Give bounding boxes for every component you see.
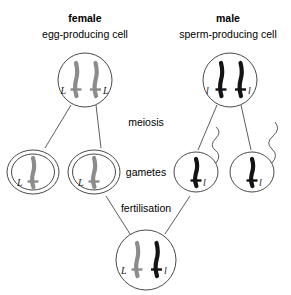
sperm-tail xyxy=(212,127,219,163)
egg-gamete-2: L xyxy=(68,150,120,194)
chromosome-L-2 xyxy=(90,63,101,96)
chromosome-L xyxy=(28,158,39,187)
meiosis-line-male-1 xyxy=(198,105,217,150)
allele-label-L: L xyxy=(120,265,127,276)
egg-producing-cell: L L xyxy=(58,53,112,107)
sperm-gamete-1: l xyxy=(174,127,219,192)
allele-label-L-left: L xyxy=(60,85,67,96)
allele-label-l-left: l xyxy=(206,85,209,96)
meiosis-line-female-2 xyxy=(96,105,101,148)
chromosome-l xyxy=(247,159,258,186)
meiosis-fertilisation-diagram: female egg-producing cell male sperm-pro… xyxy=(0,0,291,295)
female-header-title: female xyxy=(68,12,101,24)
cell-membrane xyxy=(58,53,112,107)
meiosis-connectors-female xyxy=(45,105,101,148)
allele-label-l: l xyxy=(259,177,262,188)
chromosome-l-1 xyxy=(216,63,227,96)
chromosome-l xyxy=(191,159,202,186)
zygote-cell: L l xyxy=(116,230,176,290)
allele-label-l: l xyxy=(164,265,167,276)
sperm-tail xyxy=(269,122,278,163)
cell-membrane xyxy=(116,230,176,290)
sperm-producing-cell: l l xyxy=(203,53,257,107)
meiosis-line-female-1 xyxy=(45,105,71,148)
fertilisation-label: fertilisation xyxy=(121,202,171,214)
meiosis-label: meiosis xyxy=(128,116,164,128)
chromosome-l xyxy=(151,243,162,276)
allele-label-L-right: L xyxy=(102,85,109,96)
female-header-subtitle: egg-producing cell xyxy=(42,28,128,40)
meiosis-connectors-male xyxy=(198,105,251,150)
allele-label-L: L xyxy=(77,177,84,188)
gametes-label: gametes xyxy=(126,166,166,178)
male-header-title: male xyxy=(216,12,240,24)
cell-membrane xyxy=(203,53,257,107)
allele-label-l: l xyxy=(203,177,206,188)
allele-label-L: L xyxy=(16,177,23,188)
egg-gamete-1: L xyxy=(7,150,59,194)
chromosome-L-1 xyxy=(71,63,82,96)
chromosome-L xyxy=(89,158,100,187)
allele-label-l-right: l xyxy=(248,85,251,96)
sperm-gamete-2: l xyxy=(230,122,278,192)
chromosome-L xyxy=(132,243,143,276)
male-header-subtitle: sperm-producing cell xyxy=(179,28,276,40)
meiosis-line-male-2 xyxy=(241,105,251,150)
chromosome-l-2 xyxy=(235,63,246,96)
